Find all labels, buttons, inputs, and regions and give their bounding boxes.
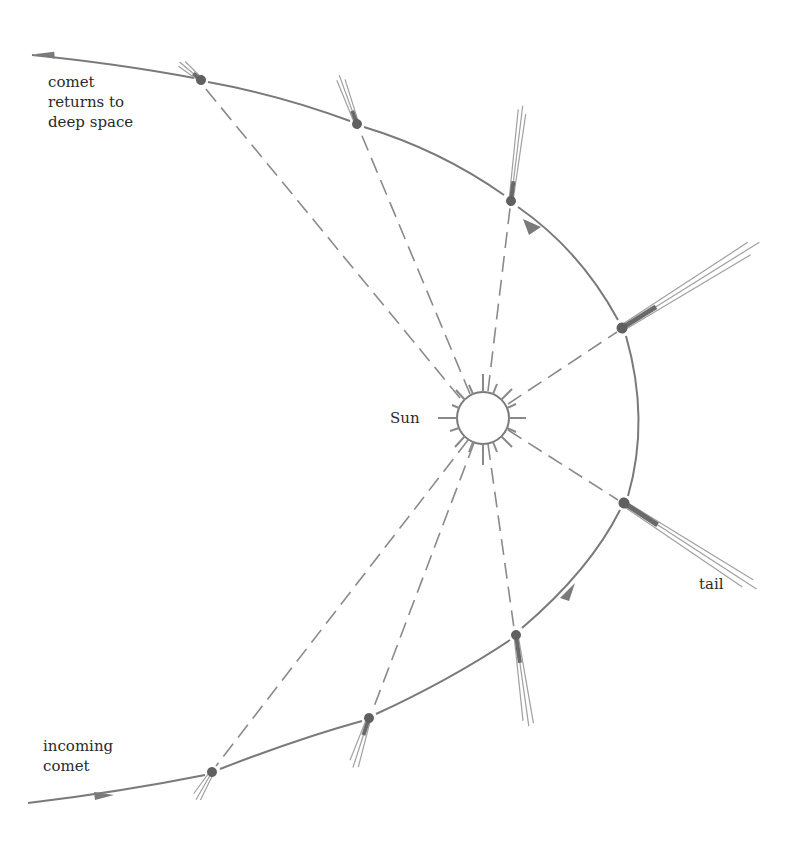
label-comet-returns: comet returns to deep space xyxy=(48,72,133,132)
orbit-segment-incoming xyxy=(28,775,205,803)
comet-nucleus xyxy=(505,195,516,206)
comet-nucleus xyxy=(205,765,219,779)
comet-1 xyxy=(192,765,219,802)
label-sun: Sun xyxy=(390,408,420,428)
comet-tail xyxy=(507,105,527,201)
comet-4 xyxy=(616,495,760,594)
label-incoming-comet: incoming comet xyxy=(43,736,113,776)
comet-3 xyxy=(510,629,533,726)
comet-8 xyxy=(176,58,208,87)
comet-5 xyxy=(614,237,762,336)
label-tail: tail xyxy=(699,574,724,594)
comet-nucleus xyxy=(510,629,521,640)
comet-tail xyxy=(511,634,534,726)
orbit-path xyxy=(28,55,639,803)
arrow-outgoing-icon xyxy=(34,50,55,58)
comet-7 xyxy=(335,73,364,130)
comet-6 xyxy=(505,105,527,206)
